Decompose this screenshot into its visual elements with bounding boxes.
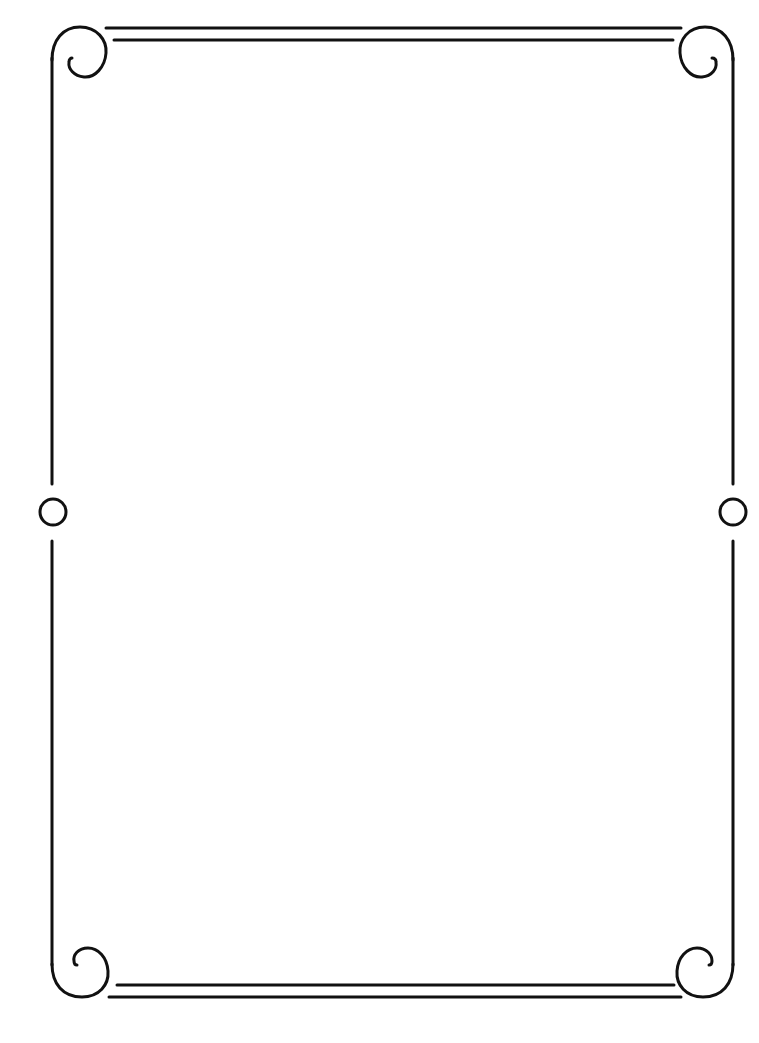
bottom-left-scroll-ornament — [52, 948, 108, 997]
decorative-border-frame — [0, 0, 759, 1043]
top-right-scroll-ornament — [680, 27, 733, 77]
top-left-scroll-ornament — [52, 27, 106, 77]
bottom-right-scroll-ornament — [677, 948, 733, 997]
left-ring-ornament — [40, 499, 66, 525]
right-ring-ornament — [720, 499, 746, 525]
